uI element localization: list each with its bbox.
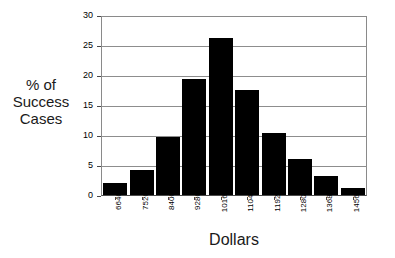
y-tick-label: 0 — [67, 191, 93, 200]
bar-cell — [313, 17, 339, 195]
x-tick-label: 13680 — [326, 190, 334, 212]
bar — [262, 133, 286, 195]
x-tick-label: 8400 — [168, 192, 176, 210]
y-tick-label: 25 — [67, 41, 93, 50]
bar — [235, 90, 259, 195]
x-tick-cell: 13680 — [313, 197, 339, 231]
x-tick-cell: 6640 — [102, 197, 128, 231]
x-tick-cell: 9280 — [181, 197, 207, 231]
x-tick-label: 11920 — [274, 190, 282, 212]
bar — [182, 79, 206, 195]
x-tick-cell: 7520 — [128, 197, 154, 231]
y-tick-label: 30 — [67, 11, 93, 20]
bar-series — [102, 17, 366, 195]
bar-cell — [287, 17, 313, 195]
y-tick-mark — [97, 16, 101, 17]
y-tick-label: 20 — [67, 71, 93, 80]
x-tick-label: 12800 — [300, 190, 308, 212]
y-tick-mark — [97, 46, 101, 47]
y-axis-title-line-3: Cases — [2, 110, 80, 127]
bar-cell — [208, 17, 234, 195]
x-tick-cell: 12800 — [287, 197, 313, 231]
y-tick-mark — [97, 76, 101, 77]
y-tick-mark — [97, 166, 101, 167]
bar-cell — [260, 17, 286, 195]
x-tick-cell: 11040 — [234, 197, 260, 231]
x-tick-cell: 8400 — [155, 197, 181, 231]
bar-cell — [181, 17, 207, 195]
bar-cell — [128, 17, 154, 195]
bar — [156, 137, 180, 195]
x-tick-label: 10160 — [221, 190, 229, 212]
bar-cell — [102, 17, 128, 195]
y-tick-label: 15 — [67, 101, 93, 110]
x-tick-label: 9280 — [194, 192, 202, 210]
x-tick-label: 14560 — [353, 190, 361, 212]
x-axis-tick-labels: 6640752084009280101601104011920128001368… — [102, 197, 366, 231]
y-tick-label: 5 — [67, 161, 93, 170]
y-tick-label: 10 — [67, 131, 93, 140]
x-tick-label: 7520 — [142, 192, 150, 210]
y-tick-mark — [97, 106, 101, 107]
x-tick-label: 6640 — [115, 192, 123, 210]
bar — [209, 38, 233, 195]
x-axis-title: Dollars — [101, 231, 367, 249]
x-tick-label: 11040 — [247, 190, 255, 212]
x-tick-cell: 10160 — [208, 197, 234, 231]
histogram-chart: % of Success Cases 051015202530 66407520… — [0, 0, 395, 258]
y-tick-mark — [97, 196, 101, 197]
bar-cell — [155, 17, 181, 195]
x-tick-cell: 11920 — [260, 197, 286, 231]
y-tick-mark — [97, 136, 101, 137]
x-tick-cell: 14560 — [340, 197, 366, 231]
bar-cell — [234, 17, 260, 195]
bar-cell — [340, 17, 366, 195]
